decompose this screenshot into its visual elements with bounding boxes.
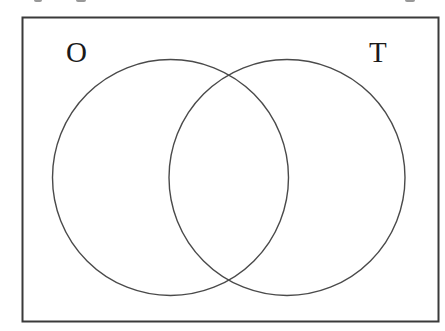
set-t-label: T [369, 36, 387, 68]
venn-diagram: O T [0, 0, 445, 331]
set-o-circle [53, 60, 289, 296]
set-t-circle [169, 60, 405, 296]
set-o-label: O [66, 36, 87, 68]
